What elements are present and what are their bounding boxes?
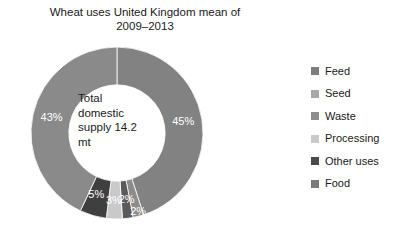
legend-swatch-icon xyxy=(311,67,319,75)
legend-swatch-icon xyxy=(311,112,319,120)
legend-item-label: Processing xyxy=(325,133,379,144)
legend-swatch-icon xyxy=(311,157,319,165)
legend-item[interactable]: Waste xyxy=(311,105,400,128)
legend-swatch-icon xyxy=(311,180,319,188)
legend-item-label: Seed xyxy=(325,88,351,99)
donut-chart: 45%2%2%3%5%43% Total domestic supply 14.… xyxy=(0,36,290,229)
legend-item-label: Other uses xyxy=(325,156,379,167)
pie-slice-label: 5% xyxy=(88,188,104,200)
pie-slice-label: 3% xyxy=(106,194,122,206)
legend-item-label: Food xyxy=(325,178,350,189)
legend-swatch-icon xyxy=(311,90,319,98)
pie-slice-label: 2% xyxy=(130,205,146,217)
legend-item[interactable]: Food xyxy=(311,173,400,196)
pie-slice-label: 43% xyxy=(41,111,63,123)
legend-item[interactable]: Other uses xyxy=(311,150,400,173)
donut-center-label: Total domestic supply 14.2 mt xyxy=(78,91,164,149)
legend-item[interactable]: Processing xyxy=(311,128,400,151)
pie-slice-label: 45% xyxy=(172,115,194,127)
legend-item[interactable]: Feed xyxy=(311,60,400,83)
legend-item-label: Waste xyxy=(325,111,356,122)
chart-title: Wheat uses United Kingdom mean of 2009–2… xyxy=(0,5,290,33)
legend-item[interactable]: Seed xyxy=(311,83,400,106)
chart-figure: Wheat uses United Kingdom mean of 2009–2… xyxy=(0,0,400,229)
chart-legend: FeedSeedWasteProcessingOther usesFood xyxy=(311,60,400,195)
legend-item-label: Feed xyxy=(325,66,350,77)
legend-swatch-icon xyxy=(311,135,319,143)
